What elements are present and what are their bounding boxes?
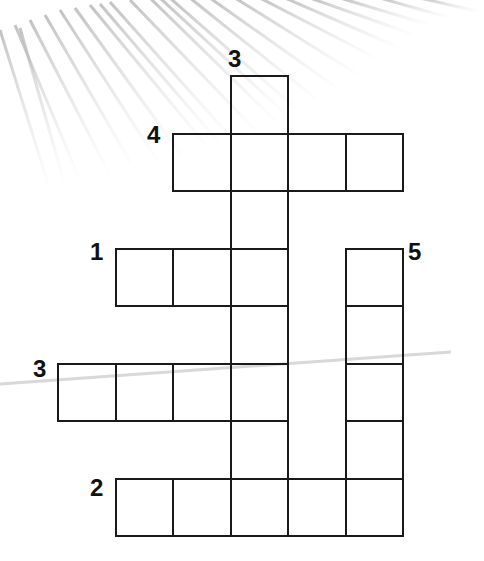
crossword-cell[interactable]	[345, 478, 404, 537]
crossword-cell[interactable]	[345, 420, 404, 480]
crossword-cell[interactable]	[345, 363, 404, 422]
crossword-cell[interactable]	[172, 478, 232, 537]
crossword-cell[interactable]	[230, 190, 289, 250]
crossword-cell[interactable]	[230, 305, 289, 365]
crossword-cell[interactable]	[172, 363, 232, 422]
crossword-cell[interactable]	[230, 133, 289, 192]
clue-number-3-across: 3	[33, 357, 46, 381]
crossword-cell[interactable]	[287, 133, 347, 192]
crossword-cell[interactable]	[345, 305, 404, 365]
crossword-cell[interactable]	[230, 478, 289, 537]
clue-number-3-down: 3	[228, 47, 241, 71]
crossword-cell[interactable]	[230, 75, 289, 135]
crossword-cell[interactable]	[230, 363, 289, 422]
crossword-cell[interactable]	[345, 248, 404, 307]
clue-number-5-down: 5	[408, 240, 421, 264]
crossword-cell[interactable]	[115, 248, 174, 307]
crossword-cell[interactable]	[230, 248, 289, 307]
crossword-cell[interactable]	[115, 363, 174, 422]
clue-number-1-across: 1	[90, 240, 103, 264]
crossword-cell[interactable]	[115, 478, 174, 537]
crossword-cell[interactable]	[172, 248, 232, 307]
clue-number-4-across: 4	[147, 123, 160, 147]
crossword-cell[interactable]	[172, 133, 232, 192]
crossword-cell[interactable]	[287, 478, 347, 537]
crossword-cell[interactable]	[57, 363, 117, 422]
clue-number-2-across: 2	[90, 476, 103, 500]
crossword-cell[interactable]	[230, 420, 289, 480]
crossword-cell[interactable]	[345, 133, 404, 192]
